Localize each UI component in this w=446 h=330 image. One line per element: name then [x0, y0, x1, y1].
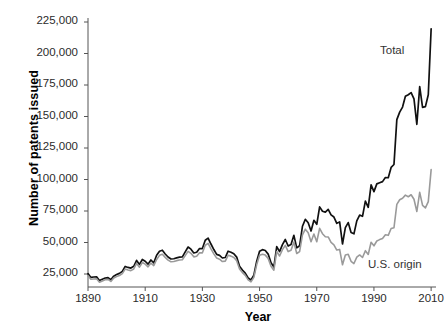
- x-axis-title: Year: [88, 310, 428, 324]
- x-tick-label: 1990: [344, 292, 404, 304]
- x-tick-label: 1910: [115, 292, 175, 304]
- y-tick-label: 100,000: [6, 172, 78, 184]
- axis-lines: [88, 18, 436, 287]
- y-tick-label: 25,000: [6, 266, 78, 278]
- y-tick-label: 200,000: [6, 46, 78, 58]
- y-tick-label: 150,000: [6, 109, 78, 121]
- axis-ticks: [84, 22, 431, 291]
- x-tick-label: 1890: [58, 292, 118, 304]
- series-label-total: Total: [380, 44, 404, 56]
- y-tick-label: 50,000: [6, 235, 78, 247]
- data-series-group: [88, 29, 431, 282]
- x-tick-label: 2010: [401, 292, 446, 304]
- x-tick-label: 1970: [287, 292, 347, 304]
- y-tick-label: 175,000: [6, 77, 78, 89]
- y-tick-label: 125,000: [6, 140, 78, 152]
- series-label-us-origin: U.S. origin: [368, 258, 422, 270]
- y-axis-tick-labels: 25,00050,00075,000100,000125,000150,0001…: [0, 0, 78, 330]
- x-tick-label: 1930: [172, 292, 232, 304]
- x-tick-label: 1950: [230, 292, 290, 304]
- y-tick-label: 75,000: [6, 203, 78, 215]
- y-tick-label: 225,000: [6, 14, 78, 26]
- patents-issued-line-chart: Number of patents issued 25,00050,00075,…: [0, 0, 446, 330]
- series-line-total: [88, 29, 431, 281]
